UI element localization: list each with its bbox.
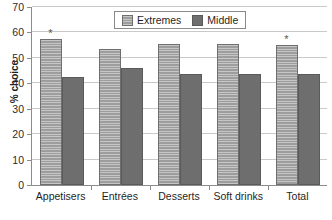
chart-legend: Extremes Middle bbox=[114, 11, 246, 29]
plot-area: 0 10 20 30 40 50 60 70 bbox=[31, 7, 327, 186]
x-tick-label-total: Total bbox=[268, 190, 327, 202]
x-axis-labels: Appetisers Entrées Desserts Soft drinks … bbox=[31, 190, 327, 202]
x-tick-label-entrees: Entrées bbox=[90, 190, 149, 202]
y-tick-label-50: 50 bbox=[12, 52, 24, 64]
x-tick-label-appetisers: Appetisers bbox=[31, 190, 90, 202]
bar-extremes-appetisers: * bbox=[40, 39, 62, 185]
bar-extremes-entrees bbox=[99, 49, 121, 185]
bar-middle-total bbox=[298, 74, 320, 185]
bar-group-soft-drinks bbox=[209, 7, 268, 185]
bar-middle-soft-drinks bbox=[239, 74, 261, 185]
significance-asterisk: * bbox=[284, 35, 288, 43]
bar-extremes-desserts bbox=[158, 44, 180, 185]
y-tick-label-10: 10 bbox=[12, 154, 24, 166]
legend-swatch-middle-icon bbox=[192, 15, 203, 26]
y-tick-label-70: 70 bbox=[12, 1, 24, 13]
y-tick-label-30: 30 bbox=[12, 103, 24, 115]
bar-middle-desserts bbox=[180, 74, 202, 185]
legend-item-extremes: Extremes bbox=[122, 14, 181, 26]
legend-label-middle: Middle bbox=[207, 14, 238, 26]
bar-group-entrees bbox=[91, 7, 150, 185]
bar-middle-appetisers bbox=[62, 77, 84, 185]
bar-group-total: * bbox=[268, 7, 327, 185]
significance-asterisk: * bbox=[48, 29, 52, 37]
bar-chart: % choice 0 10 20 30 40 50 60 bbox=[0, 0, 332, 220]
y-tick-0 bbox=[27, 185, 32, 186]
bar-group-desserts bbox=[150, 7, 209, 185]
bar-groups: * * bbox=[32, 7, 327, 185]
y-tick-label-0: 0 bbox=[18, 179, 24, 191]
y-tick-label-40: 40 bbox=[12, 77, 24, 89]
y-tick-label-20: 20 bbox=[12, 128, 24, 140]
legend-swatch-extremes-icon bbox=[122, 15, 133, 26]
legend-label-extremes: Extremes bbox=[137, 14, 181, 26]
bar-extremes-soft-drinks bbox=[217, 44, 239, 185]
y-tick-label-60: 60 bbox=[12, 26, 24, 38]
legend-item-middle: Middle bbox=[192, 14, 238, 26]
x-tick-label-soft-drinks: Soft drinks bbox=[209, 190, 268, 202]
bar-extremes-total: * bbox=[276, 45, 298, 185]
bar-group-appetisers: * bbox=[32, 7, 91, 185]
bar-middle-entrees bbox=[121, 68, 143, 185]
x-tick-label-desserts: Desserts bbox=[149, 190, 208, 202]
